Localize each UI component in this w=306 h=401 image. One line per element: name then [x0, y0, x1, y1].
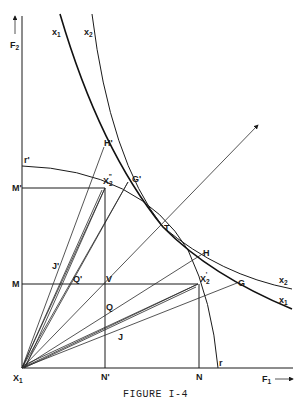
- label-X2-double-prime: X2": [103, 173, 113, 187]
- label-x1-top: x1: [52, 27, 61, 38]
- label-x2-top: x2: [84, 27, 93, 38]
- label-N-prime: N': [101, 372, 110, 382]
- figure-caption: FIGURE I-4: [123, 389, 188, 400]
- isoquant-x2: [92, 14, 292, 289]
- label-Q: Q: [106, 302, 113, 312]
- label-G-prime: G': [132, 174, 141, 184]
- label-x2-right: x2: [279, 275, 288, 286]
- label-F1: F1: [262, 374, 272, 385]
- label-r: r: [219, 358, 223, 368]
- label-M-prime: M': [12, 183, 22, 193]
- figure-diagram: F2 F1 X1 x1 x2 x2 x1 r' r H' G' X2" X2' …: [0, 0, 306, 401]
- isoquant-x1: [60, 14, 292, 309]
- expansion-ray: [22, 125, 258, 368]
- label-r-prime: r': [24, 155, 30, 165]
- label-x1-right: x1: [279, 295, 288, 306]
- label-F2: F2: [10, 40, 20, 51]
- label-origin: X1: [13, 373, 23, 384]
- ray-x2p-c: [24, 287, 196, 368]
- label-J: J: [118, 332, 123, 342]
- label-M: M: [12, 279, 20, 289]
- label-V: V: [106, 274, 112, 284]
- label-J-prime: J': [52, 261, 59, 271]
- label-T: T: [164, 223, 170, 233]
- label-X2-prime: X2': [200, 271, 210, 285]
- label-Q-prime: Q': [73, 274, 82, 284]
- label-G: G: [238, 278, 245, 288]
- label-H: H: [203, 248, 210, 258]
- label-N: N: [196, 372, 203, 382]
- label-H-prime: H': [104, 138, 113, 148]
